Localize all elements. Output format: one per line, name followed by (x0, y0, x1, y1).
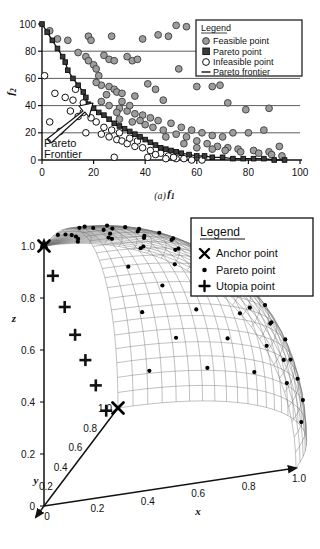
pareto-point (153, 143, 158, 148)
legend-a[interactable]: Legend Feasible point Pareto point Infea… (196, 20, 302, 77)
feasible-point (150, 124, 157, 131)
legend-b[interactable]: Legend Anchor point Pareto point (191, 218, 313, 296)
pareto-point (158, 145, 163, 150)
feasible-point (54, 36, 61, 43)
utopia-point (59, 301, 71, 313)
pareto-point (112, 121, 117, 126)
hollow-circle-icon (203, 59, 210, 66)
svg-text:40: 40 (25, 100, 37, 111)
pareto-point (133, 132, 138, 137)
infeasible-point (163, 155, 170, 162)
feasible-point (193, 144, 200, 151)
pareto-point (60, 54, 65, 59)
infeasible-point (93, 119, 100, 126)
svg-text:40: 40 (140, 167, 152, 178)
pareto-point-3d (296, 377, 300, 381)
pareto-point-3d (102, 228, 106, 232)
pareto-point (107, 117, 112, 122)
series-utopia-points-b (47, 270, 112, 417)
z-tick-label: 0.8 (21, 293, 35, 304)
feasible-point (209, 83, 216, 90)
chart-b-svg: 00.20.40.60.81.0 00.20.40.60.81.0 0.20.4… (0, 212, 320, 549)
origin-arrow (36, 506, 44, 517)
svg-text:100: 100 (292, 167, 309, 178)
pareto-point (63, 60, 68, 65)
axis-title-f2-a: f2 (4, 88, 18, 96)
pareto-point-3d (147, 369, 151, 373)
pareto-point-3d (108, 232, 112, 236)
pareto-point-3d (142, 234, 146, 238)
pareto-point (282, 158, 287, 163)
small-dot-icon (202, 268, 207, 273)
pareto-point-3d (301, 398, 305, 402)
surface-mesh-line (117, 370, 304, 437)
x-tick-label: 1.0 (292, 473, 306, 484)
x-axis-ticks-b: 00.20.40.60.81.0 (44, 473, 306, 522)
svg-text:0: 0 (30, 155, 36, 166)
legend-a-item-feasible[interactable]: Feasible point (203, 36, 270, 46)
pareto-point (143, 137, 148, 142)
utopia-point (47, 270, 59, 282)
pareto-point-3d (263, 303, 267, 307)
feasible-point (137, 117, 144, 124)
feasible-point (103, 91, 110, 98)
legend-b-label-utopia: Utopia point (216, 280, 275, 292)
pareto-point (195, 154, 200, 159)
pareto-point (40, 22, 45, 27)
pareto-frontier-annotation-text: Pareto Frontier (44, 137, 82, 160)
feasible-point (260, 127, 267, 134)
feasible-point (178, 124, 185, 131)
infeasible-point (170, 154, 177, 161)
pareto-point-3d (194, 307, 198, 311)
pareto-point (50, 38, 55, 43)
pareto-point (164, 147, 169, 152)
pareto-point-3d (160, 283, 164, 287)
feasible-point (160, 127, 167, 134)
panel-a-pareto-frontier-2d: 0 20 40 60 80 100 0 20 40 60 80 100 (0, 0, 320, 212)
svg-text:20: 20 (88, 167, 100, 178)
pareto-point (76, 83, 81, 88)
feasible-point (106, 102, 113, 109)
pareto-point (210, 155, 215, 160)
x-tick-label: 0.8 (242, 481, 256, 492)
svg-text:0: 0 (39, 167, 45, 178)
pareto-point-3d (77, 226, 81, 230)
pareto-point (179, 151, 184, 156)
z-tick-label: 1.0 (21, 241, 35, 252)
infeasible-point (52, 90, 59, 97)
pareto-point-3d (288, 357, 292, 361)
feasible-point (88, 37, 95, 44)
pareto-point (117, 124, 122, 129)
pareto-point-3d (139, 246, 143, 250)
infeasible-point (144, 154, 151, 161)
feasible-point (175, 65, 182, 72)
feasible-point (245, 129, 252, 136)
infeasible-point (106, 134, 113, 141)
legend-a-item-infeasible[interactable]: Infeasible point (203, 57, 274, 67)
axis-title-y-b: y (32, 474, 39, 486)
legend-a-label-feasible: Feasible point (213, 36, 270, 46)
feasible-point (116, 116, 123, 123)
feasible-point (188, 127, 195, 134)
pareto-point-3d (252, 370, 256, 374)
feasible-point (126, 102, 133, 109)
feasible-point (266, 105, 273, 112)
infeasible-point (108, 127, 115, 134)
infeasible-point (62, 94, 69, 101)
pareto-point-3d (299, 420, 303, 424)
pareto-point-3d (176, 247, 180, 251)
surface-mesh-line (44, 226, 176, 402)
pareto-point (81, 90, 86, 95)
feasible-point (139, 36, 146, 43)
legend-b-label-pareto: Pareto point (216, 264, 275, 276)
panel-a-caption: (a) (0, 190, 320, 201)
pareto-point-3d (83, 225, 87, 229)
infeasible-point (83, 130, 90, 137)
svg-text:60: 60 (191, 167, 203, 178)
feasible-point (276, 143, 283, 150)
y-tick-label: 0.2 (39, 481, 53, 492)
feasible-point (75, 49, 82, 56)
surface-mesh-line (118, 401, 307, 468)
feasible-point (98, 98, 105, 105)
feasible-point (113, 109, 120, 116)
